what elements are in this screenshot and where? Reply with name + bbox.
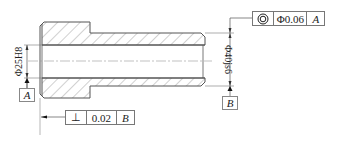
concentricity-frame: Φ0.06 A: [252, 11, 325, 26]
perpendicularity-frame: ⊥ 0.02 B: [65, 110, 135, 125]
upper-section: [42, 22, 205, 45]
outer-diameter-label: Φ40js6: [223, 40, 234, 80]
datum-a-box: A: [19, 88, 35, 102]
perpendicularity-icon: ⊥: [66, 111, 87, 124]
perpendicularity-value: 0.02: [87, 111, 116, 124]
datum-a-letter: A: [24, 89, 31, 101]
datum-b-box: B: [222, 96, 238, 110]
concentricity-icon: [253, 12, 274, 25]
concentricity-datum: A: [307, 12, 324, 25]
bore-diameter-label: Φ25H8: [13, 44, 24, 80]
lower-section: [42, 78, 205, 98]
perpendicularity-datum: B: [117, 111, 134, 124]
datum-b-letter: B: [227, 97, 234, 109]
concentricity-value: Φ0.06: [274, 12, 307, 25]
